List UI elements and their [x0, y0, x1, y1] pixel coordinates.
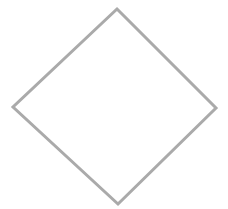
canvas-background	[0, 0, 228, 209]
figure-canvas	[0, 0, 228, 209]
diamond-figure	[0, 0, 228, 209]
